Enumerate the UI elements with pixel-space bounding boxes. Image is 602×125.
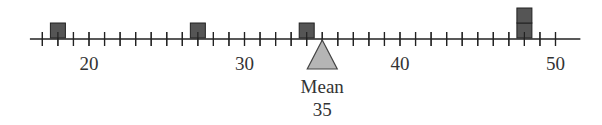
mean-value: 35 xyxy=(313,99,332,120)
tick-label: 50 xyxy=(546,53,565,74)
mean-fulcrum: Mean 35 xyxy=(301,40,345,120)
dot-plot-number-line: 20304050 Mean 35 xyxy=(0,0,602,125)
data-block xyxy=(517,8,532,23)
tick-label: 40 xyxy=(391,53,410,74)
data-blocks xyxy=(42,8,555,46)
tick-label: 20 xyxy=(80,53,99,74)
tick-label: 30 xyxy=(235,53,254,74)
mean-label: Mean xyxy=(301,76,345,97)
mean-triangle-icon xyxy=(307,40,337,69)
